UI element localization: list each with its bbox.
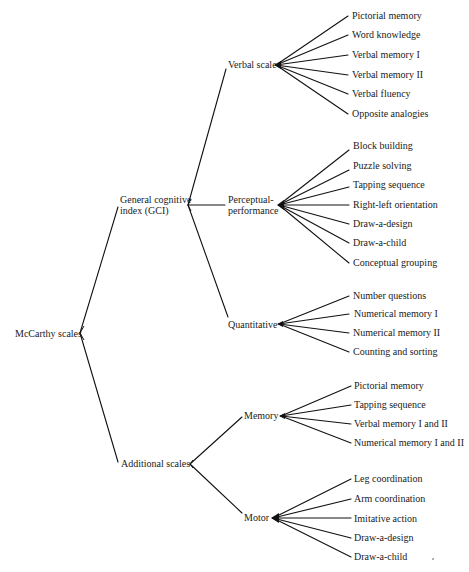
edge-gci-quant <box>188 205 228 317</box>
leaf-verbal: Pictorial memory <box>352 10 422 21</box>
leaf-verbal: Verbal fluency <box>352 88 411 99</box>
leaf-motor: Arm coordination <box>354 493 425 504</box>
leaf-verbal: Opposite analogies <box>352 108 428 119</box>
leaf-verbal: Verbal memory II <box>352 69 423 80</box>
edge-root-gci <box>80 207 118 333</box>
edge-gci-verbal <box>188 69 226 205</box>
edge-add-motor <box>190 464 242 513</box>
node-gci: General cognitive index (GCI) <box>120 194 191 216</box>
leaf-motor: Imitative action <box>354 513 417 524</box>
leaf-perceptual: Draw-a-design <box>353 218 412 229</box>
node-verbal: Verbal scale <box>228 59 277 70</box>
leaf-perceptual: Conceptual grouping <box>353 257 437 268</box>
node-perc-line2: performance <box>228 205 279 216</box>
leaf-verbal: Verbal memory I <box>352 49 420 60</box>
leaf-quantitative: Numerical memory II <box>353 327 440 338</box>
leaf-memory: Verbal memory I and II <box>354 418 448 429</box>
leaf-perceptual: Block building <box>353 140 413 151</box>
leaf-perceptual: Puzzle solving <box>353 160 412 171</box>
leaf-memory: Tapping sequence <box>354 399 426 410</box>
node-memory: Memory <box>244 410 278 421</box>
node-gci-line2: index (GCI) <box>120 205 191 216</box>
leaf-verbal: Word knowledge <box>352 29 420 40</box>
scan-speck <box>432 558 434 560</box>
leaf-memory: Numerical memory I and II <box>354 437 464 448</box>
node-quantitative: Quantitative <box>228 319 277 330</box>
edge-root-additional <box>80 333 118 462</box>
leaf-motor: Draw-a-design <box>354 532 413 543</box>
leaf-quantitative: Counting and sorting <box>353 346 437 357</box>
node-motor: Motor <box>244 512 269 523</box>
node-additional: Additional scales <box>121 458 190 469</box>
leaf-perceptual: Tapping sequence <box>353 179 425 190</box>
node-perc-line1: Perceptual- <box>228 194 279 205</box>
leaf-perceptual: Draw-a-child <box>353 237 406 248</box>
leaf-memory: Pictorial memory <box>354 380 424 391</box>
node-perceptual: Perceptual- performance <box>228 194 279 216</box>
leaf-perceptual: Right-left orientation <box>353 199 438 210</box>
node-root: McCarthy scales <box>15 328 82 339</box>
leaf-motor: Leg coordination <box>354 473 423 484</box>
leaf-motor: Draw-a-child <box>354 551 407 562</box>
leaf-quantitative: Number questions <box>353 290 426 301</box>
node-gci-line1: General cognitive <box>120 194 191 205</box>
edge-add-memory <box>190 417 242 464</box>
tree-connectors <box>0 0 469 572</box>
leaf-quantitative: Numerical memory I <box>354 308 438 319</box>
